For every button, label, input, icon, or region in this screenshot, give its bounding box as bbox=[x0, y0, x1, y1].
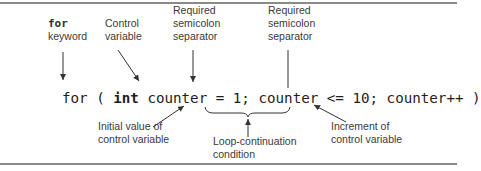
increment-arrow-icon bbox=[314, 105, 346, 122]
initial-value-arrow-icon bbox=[153, 106, 184, 127]
condition-brace-icon bbox=[205, 107, 290, 117]
control-variable-arrow-icon bbox=[118, 50, 139, 81]
